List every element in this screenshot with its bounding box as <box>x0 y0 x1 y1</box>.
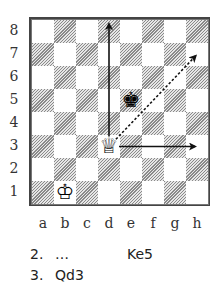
white-queen-icon: ♕ <box>98 135 120 158</box>
file-label-e: e <box>121 215 141 231</box>
white-move: Qd3 <box>55 267 84 283</box>
white-move: … <box>55 246 69 262</box>
file-label-d: d <box>99 215 119 231</box>
file-label-g: g <box>165 215 185 231</box>
move-number: 2. <box>30 246 54 262</box>
black-king-icon: ♚ <box>120 89 142 112</box>
file-label-h: h <box>187 215 207 231</box>
file-label-c: c <box>77 215 97 231</box>
rank-label-1: 1 <box>6 183 22 199</box>
rank-label-6: 6 <box>6 68 22 84</box>
white-king-icon: ♔ <box>54 181 76 204</box>
file-label-f: f <box>143 215 163 231</box>
rank-label-4: 4 <box>6 114 22 130</box>
rank-label-5: 5 <box>6 91 22 107</box>
rank-label-3: 3 <box>6 137 22 153</box>
rank-label-2: 2 <box>6 160 22 176</box>
move-number: 3. <box>30 267 54 283</box>
file-label-b: b <box>55 215 75 231</box>
rank-label-7: 7 <box>6 45 22 61</box>
board-inner-border <box>31 19 209 205</box>
file-label-a: a <box>33 215 53 231</box>
rank-label-8: 8 <box>6 22 22 38</box>
black-move: Ke5 <box>127 246 153 262</box>
